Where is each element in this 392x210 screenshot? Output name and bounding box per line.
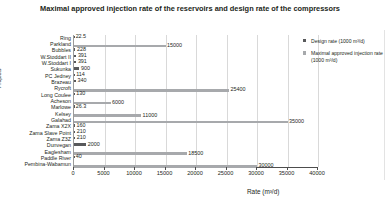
bar-design[interactable]	[74, 156, 75, 159]
bar-design[interactable]	[74, 67, 79, 70]
plot-area: 22.5150002283913919001143402540013060002…	[73, 35, 317, 168]
x-axis-tick-label: 25000	[218, 170, 234, 176]
bar-value-label: 210	[77, 135, 86, 140]
bar-value-label: 340	[78, 78, 87, 83]
legend-label: Design rate (1000 m³/d)	[311, 38, 391, 44]
y-axis-title: Projects	[0, 69, 2, 88]
bar-value-label: 26.3	[76, 104, 87, 109]
y-axis-label: Bubbles	[52, 48, 71, 53]
legend-swatch	[303, 51, 306, 54]
legend-label: Maximal approved injection rate (1000 m³…	[311, 50, 391, 63]
x-axis-tick-mark	[317, 167, 318, 170]
bar-design[interactable]	[74, 80, 76, 83]
chart-title: Maximal approved injection rate of the r…	[40, 4, 340, 14]
bar-design[interactable]	[74, 48, 75, 51]
x-axis-tick-label: 35000	[279, 170, 295, 176]
x-axis-tick-label: 15000	[157, 170, 173, 176]
legend-item[interactable]: Design rate (1000 m³/d)	[303, 38, 391, 44]
bar-design[interactable]	[74, 124, 75, 127]
bar-design[interactable]	[74, 143, 86, 146]
x-axis-tick-mark	[195, 167, 196, 170]
x-axis-tick-mark	[256, 167, 257, 170]
right-frame-divider	[384, 30, 385, 180]
x-axis-tick-label: 20000	[187, 170, 203, 176]
bar-value-label: 2000	[88, 142, 100, 147]
x-axis-tick-label: 30000	[248, 170, 264, 176]
x-axis-tick-mark	[226, 167, 227, 170]
bar-design[interactable]	[74, 131, 75, 134]
bar-design[interactable]	[74, 61, 76, 64]
chart-legend: Design rate (1000 m³/d)Maximal approved …	[303, 38, 391, 69]
x-axis-tick-label: 40000	[309, 170, 325, 176]
y-axis-label: Pembina-Wabamun	[24, 162, 71, 167]
y-axis-label: Sukunka	[50, 67, 71, 72]
chart-container: Maximal approved injection rate of the r…	[0, 0, 392, 210]
y-axis-label: Zama X2X	[46, 124, 71, 129]
x-axis-tick-mark	[287, 167, 288, 170]
bar-design[interactable]	[74, 137, 75, 140]
legend-swatch	[303, 39, 306, 42]
bar-approved[interactable]	[74, 165, 257, 168]
bar-design[interactable]	[74, 55, 76, 58]
y-axis-category-labels: RingParklandBubblesW.Stoddart IIW.Stodda…	[0, 35, 71, 168]
x-axis-tick-label: 0	[71, 170, 74, 176]
x-axis-tick-labels: 0500010000150002000025000300003500040000	[73, 170, 317, 180]
x-axis-tick-mark	[104, 167, 105, 170]
bar-value-label: 391	[78, 59, 87, 64]
x-axis-tick-label: 5000	[97, 170, 109, 176]
bar-value-label: 22.5	[76, 34, 87, 39]
x-axis-title: Rate (m³/d)	[247, 188, 279, 195]
legend-item[interactable]: Maximal approved injection rate (1000 m³…	[303, 50, 391, 63]
y-axis-label: Rycroft	[54, 86, 71, 91]
bar-design[interactable]	[74, 74, 75, 77]
x-axis-tick-mark	[134, 167, 135, 170]
bar-value-label: 30000	[259, 163, 274, 168]
y-axis-label: Marlowe	[51, 105, 71, 110]
x-axis-tick-mark	[165, 167, 166, 170]
x-axis-tick-mark	[73, 167, 74, 170]
x-axis-tick-label: 10000	[126, 170, 142, 176]
bar-design[interactable]	[74, 93, 75, 96]
y-axis-label: Dunvegan	[47, 143, 71, 148]
bar-value-label: 40	[76, 154, 82, 159]
bar-value-label: 130	[76, 91, 85, 96]
